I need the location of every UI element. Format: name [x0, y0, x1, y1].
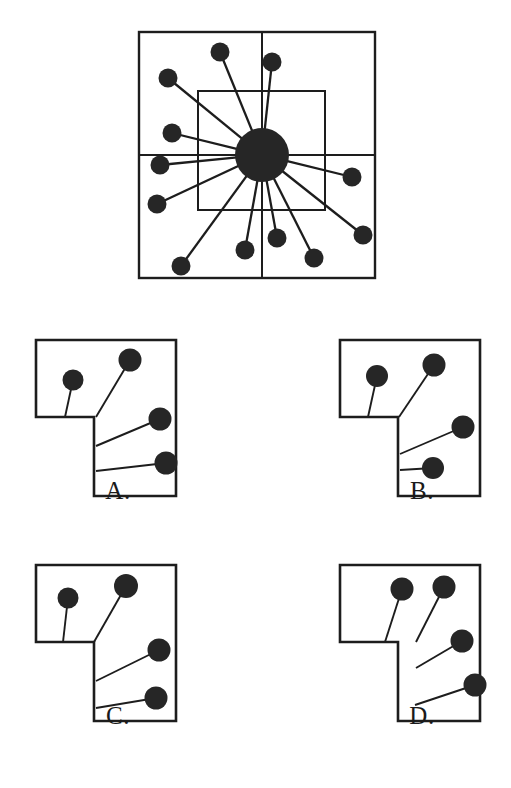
stimulus-node	[354, 226, 373, 245]
option-node	[451, 630, 474, 653]
option-a[interactable]: A.	[18, 318, 218, 533]
option-node	[114, 574, 138, 598]
option-node	[366, 365, 388, 387]
figure-page: A. B. C. D.	[0, 0, 511, 788]
stimulus-spoke	[172, 133, 238, 149]
option-c-label: C.	[18, 703, 218, 728]
option-a-group	[36, 340, 178, 496]
option-b[interactable]: B.	[322, 318, 511, 533]
stimulus-node	[163, 124, 182, 143]
option-node	[391, 578, 414, 601]
stimulus-spoke	[245, 180, 258, 250]
option-node	[58, 588, 79, 609]
stimulus-group	[139, 32, 375, 278]
option-a-label: A.	[18, 478, 218, 503]
option-b-group	[340, 340, 480, 496]
option-node	[119, 349, 142, 372]
stimulus-node	[211, 43, 230, 62]
stimulus-spoke	[265, 62, 272, 130]
option-d-group	[340, 565, 487, 721]
option-node	[433, 576, 456, 599]
option-node	[149, 408, 172, 431]
stimulus-node	[236, 241, 255, 260]
stimulus-hub-node	[235, 128, 289, 182]
stimulus-node	[268, 229, 287, 248]
stimulus-node	[159, 69, 178, 88]
option-node	[464, 674, 487, 697]
stimulus-node	[172, 257, 191, 276]
option-c-group	[36, 565, 176, 721]
option-node	[148, 639, 171, 662]
option-d[interactable]: D.	[322, 543, 511, 758]
option-node	[422, 457, 444, 479]
option-node	[423, 354, 446, 377]
stimulus-figure	[0, 0, 511, 310]
option-d-label: D.	[322, 703, 511, 728]
stimulus-node	[263, 53, 282, 72]
option-c[interactable]: C.	[18, 543, 218, 758]
stimulus-node	[343, 168, 362, 187]
stimulus-node	[148, 195, 167, 214]
option-node	[155, 452, 178, 475]
option-b-label: B.	[322, 478, 511, 503]
stimulus-node	[151, 156, 170, 175]
option-node	[63, 370, 84, 391]
stimulus-node	[305, 249, 324, 268]
option-node	[452, 416, 475, 439]
stimulus-spoke	[286, 161, 352, 177]
